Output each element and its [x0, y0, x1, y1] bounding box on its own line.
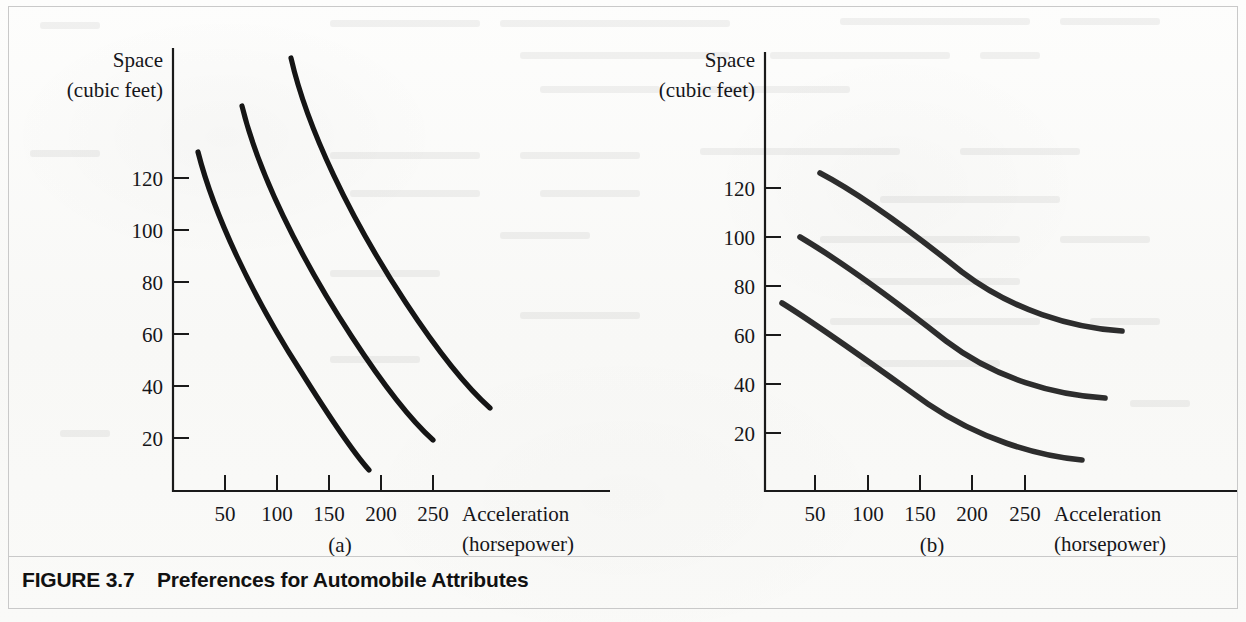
x-tick-label-200-b: 200: [956, 502, 988, 526]
y-axis-title-line2-b: (cubic feet): [659, 78, 755, 102]
x-tick-label-100-b: 100: [852, 502, 884, 526]
x-axis-title-line1-b: Acceleration: [1054, 502, 1162, 526]
x-tick-label-50-b: 50: [805, 502, 826, 526]
panel-a-plot: 120 100 80 60 40 20 50 100 150 200 250 S…: [0, 0, 623, 560]
y-tick-label-80-b: 80: [734, 275, 755, 299]
y-tick-label-80-a: 80: [142, 271, 163, 295]
x-tick-label-200-a: 200: [365, 502, 397, 526]
y-tick-label-40-b: 40: [734, 373, 755, 397]
y-tick-label-20-b: 20: [734, 422, 755, 446]
x-axis-title-line1-a: Acceleration: [462, 502, 570, 526]
y-axis-title-line1-a: Space: [113, 48, 163, 72]
x-tick-label-50-a: 50: [215, 502, 236, 526]
indifference-curve-b-1: [820, 173, 1122, 331]
y-tick-label-100-b: 100: [724, 226, 756, 250]
x-tick-label-150-a: 150: [313, 502, 345, 526]
figure-title: Preferences for Automobile Attributes: [157, 568, 528, 591]
panel-label-b: (b): [920, 533, 945, 557]
caption-divider: [9, 556, 1237, 557]
x-tick-label-250-a: 250: [417, 502, 449, 526]
indifference-curve-a-2: [242, 106, 433, 440]
panel-b: 120 100 80 60 40 20 50 100 150 200 250 S…: [612, 0, 1235, 560]
x-axis-title-line2-b: (horsepower): [1054, 532, 1166, 556]
figure-caption: FIGURE 3.7 Preferences for Automobile At…: [22, 568, 528, 592]
y-axis-title-line2-a: (cubic feet): [67, 78, 163, 102]
y-tick-label-60-a: 60: [142, 323, 163, 347]
x-tick-label-100-a: 100: [261, 502, 293, 526]
figure-number: FIGURE 3.7: [22, 568, 134, 591]
indifference-curve-a-3: [291, 58, 490, 408]
y-tick-label-100-a: 100: [132, 219, 164, 243]
y-tick-label-120-a: 120: [132, 167, 164, 191]
y-tick-label-120-b: 120: [724, 177, 756, 201]
panel-label-a: (a): [328, 533, 351, 557]
y-tick-label-40-a: 40: [142, 375, 163, 399]
figure-page: 120 100 80 60 40 20 50 100 150 200 250 S…: [0, 0, 1246, 622]
panel-a: 120 100 80 60 40 20 50 100 150 200 250 S…: [0, 0, 623, 560]
y-axis-title-line1-b: Space: [705, 48, 755, 72]
y-tick-label-20-a: 20: [142, 427, 163, 451]
x-tick-label-150-b: 150: [904, 502, 936, 526]
x-tick-label-250-b: 250: [1009, 502, 1041, 526]
y-tick-label-60-b: 60: [734, 324, 755, 348]
panel-b-plot: 120 100 80 60 40 20 50 100 150 200 250 S…: [612, 0, 1246, 560]
x-axis-title-line2-a: (horsepower): [462, 532, 574, 556]
